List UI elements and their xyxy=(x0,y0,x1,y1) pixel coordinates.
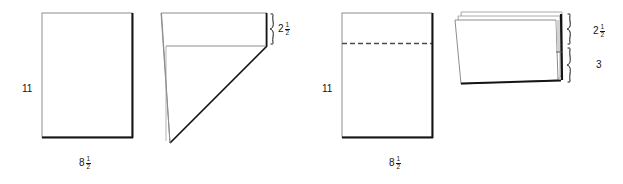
flat-sheet-width-fraction: 1 2 xyxy=(86,156,91,171)
brace-2-and-a-half-right xyxy=(567,14,570,44)
creased-sheet-width-numerator: 1 xyxy=(396,156,401,163)
creased-sheet-shape xyxy=(342,13,433,138)
figure-line-art xyxy=(0,0,623,184)
triangle-fold-brace-denominator: 2 xyxy=(285,29,290,37)
creased-sheet-width-whole: 8 xyxy=(389,158,395,168)
flat-sheet-width-whole: 8 xyxy=(79,158,85,168)
stacked-fold-shape xyxy=(455,12,563,84)
triangle-fold-brace-label: 2 1 2 xyxy=(278,22,290,37)
stacked-fold-front-sheet xyxy=(455,20,558,84)
brace-three-right xyxy=(567,48,570,82)
creased-sheet-width-denominator: 2 xyxy=(396,163,401,171)
triangle-fold-brace-whole: 2 xyxy=(278,24,284,34)
triangle-fold-outline xyxy=(161,13,267,143)
stacked-fold-bottom-brace-label: 3 xyxy=(596,60,602,70)
stacked-fold-top-brace-denominator: 2 xyxy=(600,31,605,39)
stacked-fold-right-edge xyxy=(561,14,562,80)
flat-sheet-width-numerator: 1 xyxy=(86,156,91,163)
brace-2-and-a-half-left xyxy=(270,14,273,44)
flat-sheet-rect xyxy=(42,13,132,137)
triangle-fold-brace-fraction: 1 2 xyxy=(285,22,290,37)
creased-sheet-width-fraction: 1 2 xyxy=(396,156,401,171)
stacked-fold-top-brace-fraction: 1 2 xyxy=(600,24,605,39)
flat-sheet-height-label: 11 xyxy=(22,84,32,94)
creased-sheet-width-label: 8 1 2 xyxy=(389,156,401,171)
stacked-fold-top-brace-numerator: 1 xyxy=(600,24,605,31)
creased-sheet-rect xyxy=(342,13,432,137)
paper-folding-figure: 11 8 1 2 2 1 2 11 8 1 2 xyxy=(0,0,623,184)
flat-sheet-width-label: 8 1 2 xyxy=(79,156,91,171)
stacked-fold-top-brace-label: 2 1 2 xyxy=(593,24,605,39)
flat-sheet-width-denominator: 2 xyxy=(86,163,91,171)
triangle-fold-brace-numerator: 1 xyxy=(285,22,290,29)
stacked-fold-top-brace-whole: 2 xyxy=(593,26,599,36)
creased-sheet-height-label: 11 xyxy=(322,84,332,94)
flat-sheet-shape xyxy=(42,13,133,138)
triangle-fold-shape xyxy=(161,13,267,143)
